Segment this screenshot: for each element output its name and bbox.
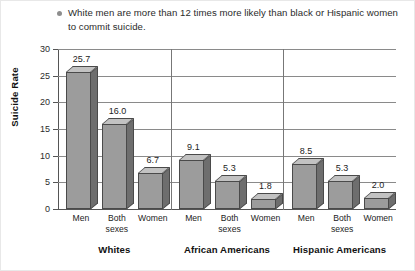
x-tick-label: Women <box>251 213 280 224</box>
bar-side-face <box>317 158 324 209</box>
caption: White men are more than 12 times more li… <box>57 6 402 33</box>
bar: 8.5 <box>292 164 317 209</box>
y-axis-title: Suicide Rate <box>9 67 20 126</box>
y-tick-mark <box>53 102 58 103</box>
y-tick-mark <box>53 182 58 183</box>
group-label: African Americans <box>184 244 270 255</box>
bar-front-face <box>102 124 127 209</box>
y-tick-label: 25 <box>40 71 50 81</box>
caption-text: White men are more than 12 times more li… <box>68 6 402 33</box>
y-tick-label: 10 <box>40 151 50 161</box>
bar-front-face <box>251 199 276 209</box>
y-tick-mark <box>53 49 58 50</box>
gridline <box>58 76 396 77</box>
x-tick-label: Men <box>72 213 89 224</box>
bar-value-label: 16.0 <box>109 106 127 116</box>
bar-front-face <box>66 72 91 209</box>
x-axis-line <box>58 209 396 210</box>
bar-front-face <box>179 160 204 209</box>
x-tick-label: Bothsexes <box>218 213 240 234</box>
bar-value-label: 9.1 <box>187 142 200 152</box>
y-tick-mark <box>53 76 58 77</box>
x-tick-label: Bothsexes <box>106 213 128 234</box>
group-separator <box>171 49 172 210</box>
y-tick-label: 0 <box>45 204 50 214</box>
group-label: Whites <box>98 244 130 255</box>
bar: 5.3 <box>328 181 353 209</box>
bar: 5.3 <box>215 181 240 209</box>
bar-value-label: 1.8 <box>259 181 272 191</box>
plot-area: 05101520253025.716.06.79.15.31.88.55.32.… <box>58 49 396 210</box>
y-tick-mark <box>53 156 58 157</box>
bar: 2.0 <box>364 198 389 209</box>
x-tick-label: Bothsexes <box>331 213 353 234</box>
bar: 25.7 <box>66 72 91 209</box>
y-tick-mark <box>53 129 58 130</box>
bar: 1.8 <box>251 199 276 209</box>
y-tick-label: 30 <box>40 44 50 54</box>
gridline <box>58 49 396 50</box>
x-tick-label: Men <box>185 213 202 224</box>
group-separator <box>283 49 284 210</box>
x-tick-label: Women <box>363 213 392 224</box>
bar-side-face <box>127 118 134 209</box>
y-tick-label: 5 <box>45 177 50 187</box>
bar: 16.0 <box>102 124 127 209</box>
group-label: Hispanic Americans <box>293 244 386 255</box>
bar-front-face <box>138 173 163 209</box>
bar-front-face <box>328 181 353 209</box>
bar-side-face <box>204 155 211 209</box>
y-tick-label: 15 <box>40 124 50 134</box>
bar-value-label: 8.5 <box>300 146 313 156</box>
bullet-dot-icon <box>57 11 62 16</box>
bar-value-label: 25.7 <box>73 54 91 64</box>
y-tick-mark <box>53 209 58 210</box>
x-tick-label: Women <box>138 213 167 224</box>
bar-value-label: 5.3 <box>223 163 236 173</box>
gridline <box>58 102 396 103</box>
bar: 9.1 <box>179 160 204 209</box>
bar-side-face <box>163 167 170 209</box>
bar-front-face <box>215 181 240 209</box>
y-tick-label: 20 <box>40 97 50 107</box>
bar-front-face <box>364 198 389 209</box>
bar-value-label: 2.0 <box>372 180 385 190</box>
bar-side-face <box>91 66 98 209</box>
bar: 6.7 <box>138 173 163 209</box>
bar-value-label: 5.3 <box>336 163 349 173</box>
bar-value-label: 6.7 <box>146 155 159 165</box>
chart-figure: White men are more than 12 times more li… <box>0 0 415 271</box>
x-tick-label: Men <box>298 213 315 224</box>
bar-front-face <box>292 164 317 209</box>
